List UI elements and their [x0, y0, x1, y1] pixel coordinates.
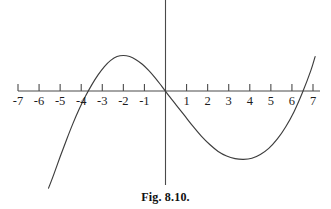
x-tick-label-3: 3 [226, 95, 232, 108]
x-tick-label-neg5: -5 [55, 95, 65, 108]
x-tick-label-5: 5 [268, 95, 274, 108]
x-tick-label-4: 4 [247, 95, 253, 108]
cubic-curve [49, 56, 316, 189]
x-tick-label-6: 6 [289, 95, 295, 108]
x-axis-group [18, 84, 320, 91]
x-tick-label-neg6: -6 [34, 95, 44, 108]
x-tick-label-2: 2 [205, 95, 211, 108]
x-tick-label-neg7: -7 [13, 95, 23, 108]
figure-container: -7-6-5-4-3-2-11234567 Fig. 8.10. [0, 0, 331, 209]
x-tick-label-neg4: -4 [76, 95, 86, 108]
x-tick-label-neg2: -2 [118, 95, 128, 108]
figure-caption: Fig. 8.10. [0, 190, 331, 205]
x-tick-label-neg1: -1 [139, 95, 149, 108]
x-tick-label-1: 1 [183, 95, 189, 108]
cubic-function-plot [0, 0, 331, 209]
x-tick-label-7: 7 [310, 95, 316, 108]
x-tick-label-neg3: -3 [97, 95, 107, 108]
